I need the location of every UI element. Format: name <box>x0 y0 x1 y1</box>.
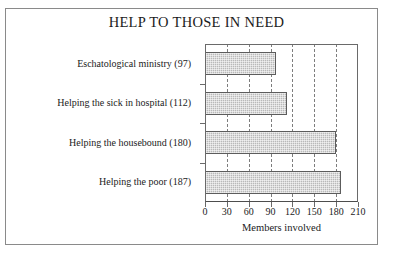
chart-figure: HELP TO THOSE IN NEED Eschatological min… <box>0 0 393 254</box>
value-axis-tick-label: 210 <box>351 206 366 217</box>
value-axis-tick-label: 150 <box>307 206 322 217</box>
plot-area <box>205 44 358 202</box>
value-axis-tick-label: 0 <box>203 206 208 217</box>
value-axis-tick-label: 180 <box>329 206 344 217</box>
category-label: Eschatological ministry (97) <box>77 58 199 70</box>
value-axis-tick-label: 30 <box>222 206 232 217</box>
category-axis-labels: Eschatological ministry (97)Helping the … <box>0 44 199 202</box>
chart-title: HELP TO THOSE IN NEED <box>0 14 393 31</box>
category-label: Helping the poor (187) <box>99 176 199 188</box>
value-axis-tick-label: 90 <box>266 206 276 217</box>
value-axis-tick-label: 60 <box>244 206 254 217</box>
axes-frame <box>205 44 358 202</box>
category-label: Helping the housebound (180) <box>69 137 199 149</box>
category-label: Helping the sick in hospital (112) <box>57 97 199 109</box>
x-axis-title: Members involved <box>205 222 358 233</box>
value-axis-tick-label: 120 <box>285 206 300 217</box>
